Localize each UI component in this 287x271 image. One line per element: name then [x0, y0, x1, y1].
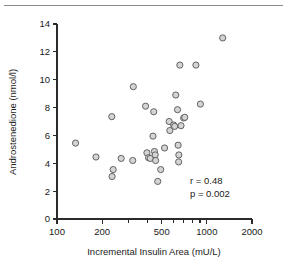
y-axis: 02468101214 — [39, 18, 57, 224]
data-point — [178, 123, 184, 129]
data-point — [151, 109, 157, 115]
data-point — [172, 123, 178, 129]
data-point — [110, 166, 116, 172]
y-axis-tick-label: 4 — [45, 158, 50, 169]
data-point — [130, 157, 136, 163]
x-axis-tick-label: 2000 — [241, 226, 262, 237]
data-point — [193, 62, 199, 68]
x-axis-tick-label: 200 — [94, 226, 110, 237]
x-axis-tick-label: 500 — [154, 226, 170, 237]
data-point — [174, 107, 180, 113]
y-axis-tick-label: 14 — [39, 18, 50, 29]
y-axis-tick-label: 0 — [45, 213, 50, 224]
data-point — [177, 62, 183, 68]
data-point — [150, 133, 156, 139]
figure-container: 02468101214 10020050010002000 Incrementa… — [0, 0, 287, 271]
y-axis-tick-label: 6 — [45, 130, 50, 141]
data-point — [182, 114, 188, 120]
annotation-pvalue: p = 0.002 — [190, 188, 230, 199]
x-axis: 10020050010002000 — [49, 219, 263, 237]
data-point — [109, 173, 115, 179]
y-axis-tick-label: 2 — [45, 186, 50, 197]
data-point — [142, 103, 148, 109]
data-point — [93, 154, 99, 160]
data-point — [176, 152, 182, 158]
data-point — [220, 35, 226, 41]
data-point — [155, 178, 161, 184]
data-point — [130, 84, 136, 90]
data-point — [72, 140, 78, 146]
data-points-layer — [72, 35, 225, 185]
y-axis-tick-label: 10 — [39, 74, 50, 85]
data-point — [118, 155, 124, 161]
x-axis-tick-label: 1000 — [196, 226, 217, 237]
annotation-correlation-r: r = 0.48 — [190, 175, 222, 186]
data-point — [197, 101, 203, 107]
data-point — [158, 166, 164, 172]
y-axis-tick-label: 12 — [39, 46, 50, 57]
data-point — [176, 159, 182, 165]
top-divider-rule — [4, 5, 283, 6]
data-point — [161, 145, 167, 151]
data-point — [109, 114, 115, 120]
scatter-plot-chart: 02468101214 10020050010002000 Incrementa… — [0, 0, 287, 271]
x-axis-tick-label: 100 — [49, 226, 65, 237]
data-point — [173, 92, 179, 98]
y-axis-title: Androstenedione (nmol/l) — [7, 69, 18, 175]
data-point — [175, 142, 181, 148]
data-point — [153, 157, 159, 163]
y-axis-tick-label: 8 — [45, 102, 50, 113]
x-axis-title: Incremental Insulin Area (mU/L) — [87, 246, 221, 257]
